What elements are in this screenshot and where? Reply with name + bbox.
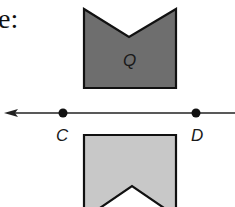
shape-label-q: Q bbox=[123, 51, 136, 70]
reflection-diagram: Q C D bbox=[0, 0, 235, 207]
point-c bbox=[59, 109, 68, 118]
point-label-c: C bbox=[56, 126, 69, 145]
point-d bbox=[192, 109, 201, 118]
point-label-d: D bbox=[191, 126, 203, 145]
preimage-shape-q bbox=[84, 9, 176, 88]
